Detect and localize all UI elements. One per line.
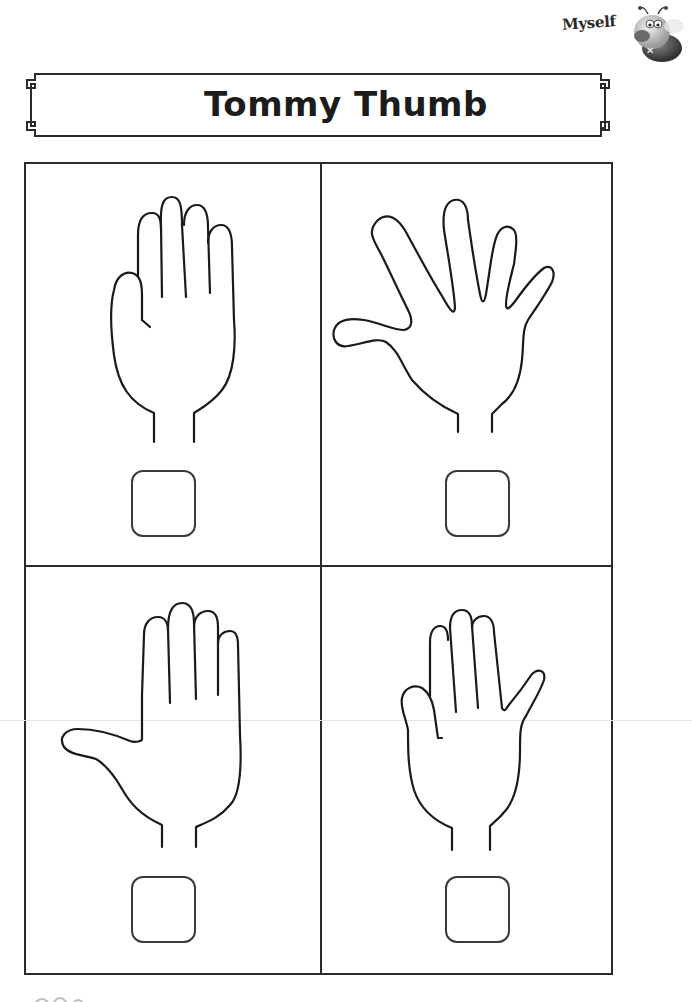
hand-thumb-out-icon bbox=[60, 595, 250, 865]
topic-badge: Myself ✕ bbox=[556, 4, 692, 66]
bee-mascot-icon: ✕ bbox=[618, 4, 690, 66]
footer-logo-fragment bbox=[34, 994, 94, 1002]
grid-divider-horizontal bbox=[24, 565, 613, 567]
grid-divider-vertical bbox=[320, 162, 322, 975]
answer-box-1[interactable] bbox=[131, 470, 196, 537]
hand-all-fingers-up-icon bbox=[100, 185, 250, 445]
topic-label: Myself bbox=[561, 12, 616, 34]
hand-little-finger-out-icon bbox=[390, 600, 560, 860]
answer-box-4[interactable] bbox=[445, 876, 510, 943]
answer-box-2[interactable] bbox=[445, 470, 510, 537]
page-title: Tommy Thumb bbox=[0, 84, 692, 124]
hand-fingers-spread-icon bbox=[330, 190, 560, 440]
answer-box-3[interactable] bbox=[131, 876, 196, 943]
svg-text:✕: ✕ bbox=[646, 45, 654, 56]
